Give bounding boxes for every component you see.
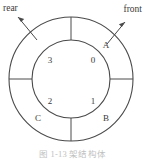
- ring-diagram: rear front A B C 0 1 2 3: [0, 0, 145, 159]
- front-arrow-icon: [107, 22, 125, 44]
- label-inner-2: 2: [48, 96, 53, 106]
- figure-container: rear front A B C 0 1 2 3 图 1-13 架结构体: [0, 0, 145, 159]
- label-rear: rear: [3, 3, 19, 13]
- label-outer-c: C: [35, 113, 41, 123]
- label-inner-0: 0: [91, 55, 96, 65]
- label-outer-b: B: [103, 113, 109, 123]
- label-front: front: [124, 4, 143, 14]
- inner-circle: [32, 40, 110, 118]
- label-inner-3: 3: [48, 55, 53, 65]
- figure-caption: 图 1-13 架结构体: [0, 149, 145, 159]
- label-outer-a: A: [103, 40, 110, 50]
- label-inner-1: 1: [91, 96, 96, 106]
